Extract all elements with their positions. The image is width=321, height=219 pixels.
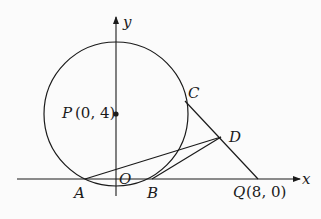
label-p-coords: (0, 4) (75, 104, 115, 122)
label-y-axis: y (122, 13, 132, 31)
label-q: Q (233, 183, 245, 201)
label-b: B (146, 184, 158, 202)
label-a: A (72, 184, 85, 202)
label-x-axis: x (302, 170, 311, 188)
segment-bd-line (152, 137, 221, 179)
label-c: C (188, 84, 200, 102)
segment-cq (185, 101, 258, 179)
label-d: D (228, 128, 241, 146)
label-q-coords: (8, 0) (246, 183, 286, 201)
geometry-diagram: y x P (0, 4) O A B C D Q (8, 0) (0, 0, 321, 219)
diagram-svg: y x P (0, 4) O A B C D Q (8, 0) (0, 0, 321, 219)
label-o: O (119, 170, 131, 188)
label-p: P (61, 104, 73, 122)
